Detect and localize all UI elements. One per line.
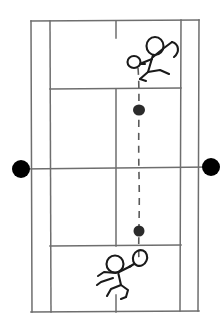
- singles-sideline-right: [180, 20, 181, 311]
- singles-sideline-left: [50, 21, 51, 312]
- right-net-post-icon: [202, 158, 220, 176]
- player-bottom-arm-left: [98, 272, 116, 276]
- player-top-head: [147, 37, 164, 55]
- court-drawing-canvas: [0, 0, 223, 334]
- player-top-leg-back: [140, 72, 148, 79]
- player-top-figure: [128, 37, 178, 81]
- player-bottom-leg-front-foot: [121, 297, 126, 299]
- player-top-arm-right-tail: [172, 42, 178, 57]
- player-top-leg-front: [148, 70, 169, 74]
- left-net-post-icon: [12, 160, 30, 178]
- baseline-bottom-line: [31, 311, 199, 312]
- player-top-racket-head: [128, 56, 141, 68]
- doubles-sideline-left: [31, 21, 32, 312]
- player-bottom-torso: [118, 272, 121, 285]
- ball-upper-icon: [133, 105, 145, 116]
- player-bottom-arm-left-lower: [97, 278, 113, 285]
- tennis-court-diagram: [0, 0, 223, 334]
- court-lines: [31, 20, 199, 312]
- doubles-sideline-right: [198, 20, 199, 311]
- player-bottom-racket-handle: [129, 264, 134, 267]
- player-top-leg-back-foot: [140, 79, 146, 81]
- player-bottom-leg-back: [107, 285, 121, 296]
- ball-lower-icon: [134, 226, 145, 237]
- player-bottom-leg-front: [121, 285, 128, 297]
- player-bottom-figure: [97, 248, 149, 299]
- baseline-top-line: [31, 20, 199, 21]
- net-line: [21, 167, 211, 169]
